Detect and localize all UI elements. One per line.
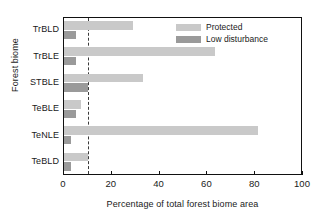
bar-trbld-protected [64, 21, 133, 30]
y-tick-label-tenle: TeNLE [1, 130, 59, 140]
y-tick-label-trble: TrBLE [1, 51, 59, 61]
bar-trble-low-disturbance [64, 57, 76, 66]
bar-tebld-protected [64, 153, 88, 162]
y-tick-label-stble: STBLE [1, 77, 59, 87]
bar-teble-low-disturbance [64, 110, 76, 119]
x-tick-100 [302, 171, 303, 175]
legend-swatch-low-disturbance [176, 36, 201, 44]
x-tick-60 [206, 171, 207, 175]
bar-tenle-protected [64, 126, 258, 135]
x-tick-0 [63, 171, 64, 175]
y-tick-label-tebld: TeBLD [1, 156, 59, 166]
legend-label: Protected [206, 22, 242, 33]
x-tick-label-0: 0 [48, 178, 78, 189]
x-tick-label-20: 20 [96, 178, 126, 189]
legend-label: Low disturbance [206, 34, 268, 45]
y-axis-title: Forest biome [10, 22, 20, 108]
bar-group [64, 150, 301, 176]
bar-teble-protected [64, 100, 81, 109]
x-tick-80 [254, 171, 255, 175]
bar-group [64, 97, 301, 123]
bar-stble-protected [64, 74, 143, 83]
bar-trbld-low-disturbance [64, 31, 76, 40]
x-tick-label-40: 40 [144, 178, 174, 189]
bar-trble-protected [64, 47, 215, 56]
bar-tenle-low-disturbance [64, 136, 71, 145]
x-tick-label-100: 100 [287, 178, 317, 189]
bar-group [64, 71, 301, 97]
legend-swatch-protected [176, 24, 201, 32]
legend-item-protected: Protected [176, 22, 268, 33]
bar-chart-figure: Forest biome TrBLDTrBLESTBLETeBLETeNLETe… [0, 0, 323, 218]
bar-tebld-low-disturbance [64, 162, 71, 171]
x-axis-title: Percentage of total forest biome area [63, 199, 302, 209]
bar-stble-low-disturbance [64, 83, 88, 92]
y-tick-label-teble: TeBLE [1, 103, 59, 113]
x-tick-label-60: 60 [191, 178, 221, 189]
x-tick-20 [111, 171, 112, 175]
chart-legend: ProtectedLow disturbance [176, 22, 268, 46]
bar-group [64, 123, 301, 149]
legend-item-low-disturbance: Low disturbance [176, 34, 268, 45]
y-tick-label-trbld: TrBLD [1, 24, 59, 34]
x-tick-label-80: 80 [239, 178, 269, 189]
x-tick-40 [159, 171, 160, 175]
bar-group [64, 44, 301, 70]
